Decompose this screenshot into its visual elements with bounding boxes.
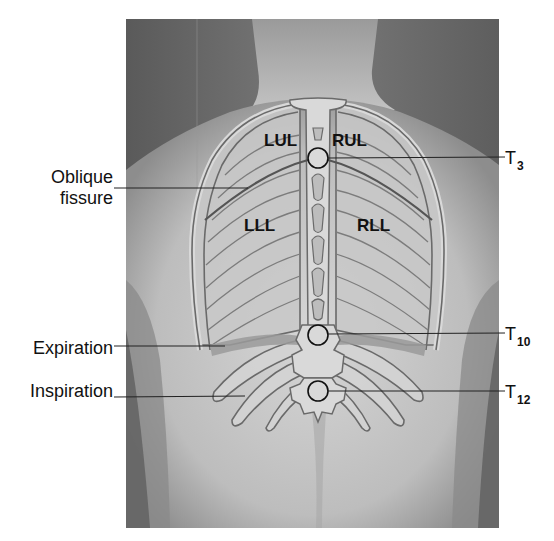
inspiration-label: Inspiration [30, 381, 113, 401]
lobe-label-lul: LUL [264, 131, 297, 150]
oblique-fissure-label-line2: fissure [60, 188, 113, 208]
expiration-label: Expiration [33, 338, 113, 358]
t3-label: T 3 [505, 148, 524, 173]
lobe-label-lll: LLL [244, 216, 275, 235]
lobe-label-rll: RLL [357, 216, 390, 235]
t12-label-sub: 12 [517, 393, 531, 407]
t10-label-main: T [505, 324, 516, 344]
oblique-fissure-label-line1: Oblique [51, 167, 113, 187]
lobe-label-rul: RUL [332, 131, 367, 150]
t3-label-sub: 3 [517, 159, 524, 173]
t12-label: T 12 [505, 382, 531, 407]
t10-label-sub: 10 [517, 335, 531, 349]
t3-label-main: T [505, 148, 516, 168]
t12-label-main: T [505, 382, 516, 402]
posterior-thorax-diagram: LUL RUL LLL RLL Oblique fissure Expirati… [0, 0, 554, 541]
t10-label: T 10 [505, 324, 531, 349]
